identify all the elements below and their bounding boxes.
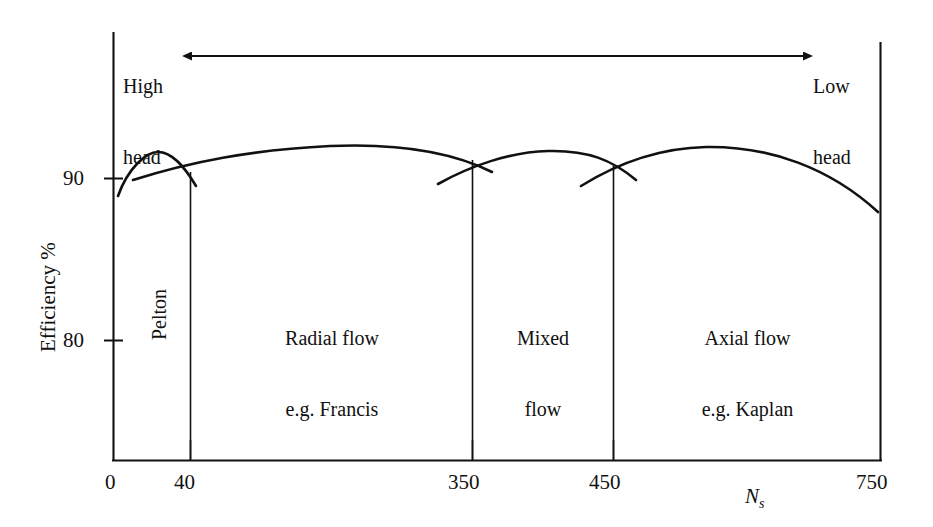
y-axis-title: Efficiency % [36,242,61,352]
x-tick-label-450: 450 [589,470,621,495]
region-label-axial-flow-line2: e.g. Kaplan [645,398,850,422]
curve-radial-flow-francis [133,145,492,180]
x-axis-title-subscript: s [759,496,764,511]
region-label-radial-flow-line2: e.g. Francis [228,398,436,422]
x-tick-label-750: 750 [856,470,888,495]
low-head-line2: head [813,146,851,170]
region-label-radial-flow: Radial flow e.g. Francis [228,280,436,469]
region-label-axial-flow: Axial flow e.g. Kaplan [645,280,850,469]
high-head-label: High head [123,28,163,217]
high-head-line1: High [123,75,163,99]
x-tick-label-350: 350 [448,470,480,495]
efficiency-curves [118,145,878,212]
x-axis-title-base: N [745,484,759,508]
x-tick-label-0: 0 [105,470,116,495]
low-head-line1: Low [813,75,851,99]
region-label-pelton: Pelton [148,289,172,340]
region-label-radial-flow-line1: Radial flow [228,327,436,351]
curve-mixed-flow [438,151,636,184]
region-label-axial-flow-line1: Axial flow [645,327,850,351]
region-label-mixed-flow: Mixed flow [483,280,603,469]
x-axis-title: Ns [745,484,764,513]
region-label-mixed-flow-line1: Mixed [483,327,603,351]
low-head-label: Low head [813,28,851,217]
y-tick-label-90: 90 [63,166,84,191]
x-tick-label-40: 40 [174,470,195,495]
y-tick-label-80: 80 [63,328,84,353]
efficiency-vs-specific-speed-figure: High head Low head Efficiency % 90 80 0 … [0,0,933,527]
high-head-line2: head [123,146,163,170]
region-label-mixed-flow-line2: flow [483,398,603,422]
